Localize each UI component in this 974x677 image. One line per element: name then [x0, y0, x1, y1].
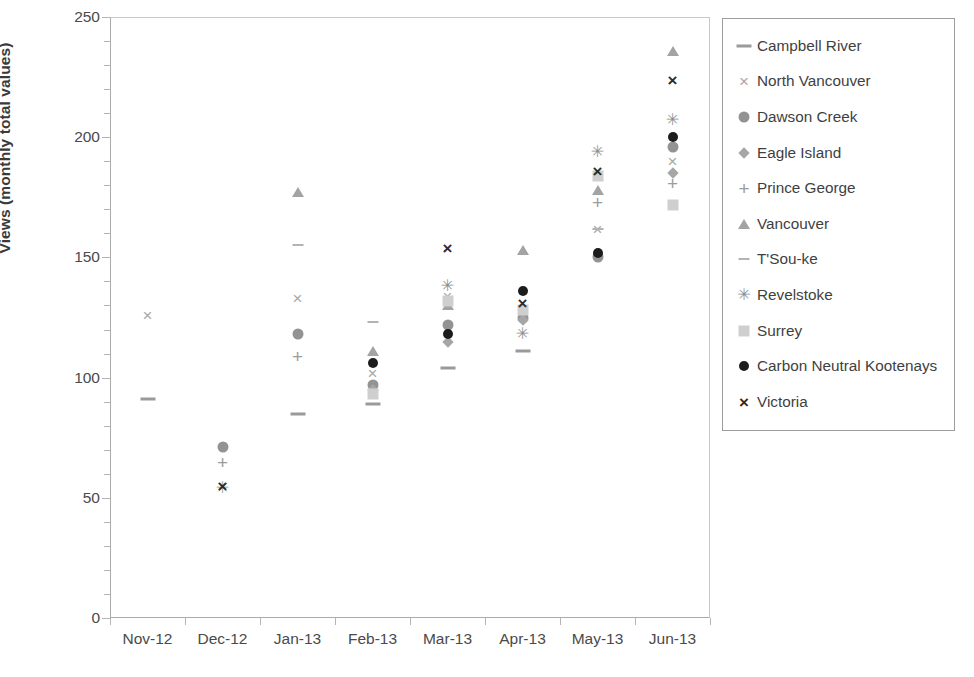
- legend-item-label: Prince George: [757, 179, 856, 197]
- legend-marker-icon: ✳: [731, 285, 757, 305]
- marker-x-bold-icon: ×: [739, 393, 749, 410]
- legend-item-label: Carbon Neutral Kootenays: [757, 357, 937, 375]
- y-tick-label: 100: [54, 369, 100, 387]
- legend-marker-icon: +: [731, 178, 757, 198]
- legend-item-label: Campbell River: [757, 37, 862, 55]
- marker-triangle-icon: [738, 219, 750, 229]
- x-tick: [185, 618, 186, 625]
- marker-dot-icon: [739, 361, 749, 371]
- y-tick-label: 0: [54, 609, 100, 627]
- y-tick-label: 200: [54, 128, 100, 146]
- x-tick-label: Apr-13: [485, 630, 560, 660]
- legend-marker-icon: [731, 143, 757, 163]
- x-tick-label: Feb-13: [335, 630, 410, 660]
- legend-marker-icon: [731, 107, 757, 127]
- y-major-tick: [102, 618, 110, 619]
- marker-dash-icon: [737, 44, 752, 47]
- legend-marker-icon: [731, 321, 757, 341]
- legend-marker-icon: [731, 214, 757, 234]
- legend-item-label: Dawson Creek: [757, 108, 857, 126]
- legend-item-label: Revelstoke: [757, 286, 833, 304]
- y-major-tick: [102, 498, 110, 499]
- legend-item-carbon-neutral-kootenays[interactable]: Carbon Neutral Kootenays: [731, 348, 948, 384]
- marker-x-icon: ×: [739, 73, 749, 90]
- y-major-tick: [102, 17, 110, 18]
- legend-item-label: Victoria: [757, 393, 808, 411]
- marker-square-icon: [739, 325, 750, 336]
- legend-item-t-sou-ke[interactable]: T'Sou-ke: [731, 242, 948, 278]
- legend: Campbell River×North VancouverDawson Cre…: [722, 18, 955, 431]
- legend-item-prince-george[interactable]: +Prince George: [731, 170, 948, 206]
- legend-marker-icon: ×: [731, 71, 757, 91]
- x-tick: [335, 618, 336, 625]
- y-tick-label: 250: [54, 8, 100, 26]
- y-tick-label: 50: [54, 489, 100, 507]
- x-tick: [485, 618, 486, 625]
- marker-diamond-icon: [738, 147, 749, 158]
- legend-item-label: T'Sou-ke: [757, 250, 818, 268]
- legend-item-surrey[interactable]: Surrey: [731, 313, 948, 349]
- marker-plus-icon: +: [738, 179, 749, 198]
- legend-marker-icon: [731, 356, 757, 376]
- y-major-tick: [102, 378, 110, 379]
- legend-item-victoria[interactable]: ×Victoria: [731, 384, 948, 420]
- x-tick: [410, 618, 411, 625]
- legend-item-revelstoke[interactable]: ✳Revelstoke: [731, 277, 948, 313]
- y-axis-title: Views (monthly total values): [0, 0, 14, 318]
- legend-marker-icon: [731, 36, 757, 56]
- x-tick: [710, 618, 711, 625]
- x-axis-tick-labels: Nov-12Dec-12Jan-13Feb-13Mar-13Apr-13May-…: [110, 630, 710, 660]
- y-tick-label: 150: [54, 248, 100, 266]
- x-tick-label: Nov-12: [110, 630, 185, 660]
- legend-item-dawson-creek[interactable]: Dawson Creek: [731, 99, 948, 135]
- legend-marker-icon: ×: [731, 392, 757, 412]
- y-major-tick: [102, 137, 110, 138]
- marker-dash-small-icon: [739, 258, 750, 260]
- x-tick-label: Mar-13: [410, 630, 485, 660]
- marker-circle-icon: [739, 111, 750, 122]
- x-tick: [635, 618, 636, 625]
- legend-item-label: Vancouver: [757, 215, 829, 233]
- legend-marker-icon: [731, 249, 757, 269]
- marker-star-icon: ✳: [737, 287, 750, 303]
- legend-item-label: Eagle Island: [757, 144, 841, 162]
- plot-area: [110, 17, 710, 618]
- legend-item-vancouver[interactable]: Vancouver: [731, 206, 948, 242]
- legend-item-campbell-river[interactable]: Campbell River: [731, 28, 948, 64]
- legend-item-north-vancouver[interactable]: ×North Vancouver: [731, 64, 948, 100]
- x-tick: [110, 618, 111, 625]
- x-tick-label: Dec-12: [185, 630, 260, 660]
- legend-item-eagle-island[interactable]: Eagle Island: [731, 135, 948, 171]
- legend-item-label: North Vancouver: [757, 72, 871, 90]
- scatter-chart: Views (monthly total values) 05010015020…: [0, 0, 974, 677]
- x-tick-label: May-13: [560, 630, 635, 660]
- legend-item-label: Surrey: [757, 322, 802, 340]
- x-tick-label: Jun-13: [635, 630, 710, 660]
- x-tick-label: Jan-13: [260, 630, 335, 660]
- y-major-tick: [102, 257, 110, 258]
- x-tick: [560, 618, 561, 625]
- x-tick: [260, 618, 261, 625]
- y-axis-tick-labels: 050100150200250: [44, 0, 100, 618]
